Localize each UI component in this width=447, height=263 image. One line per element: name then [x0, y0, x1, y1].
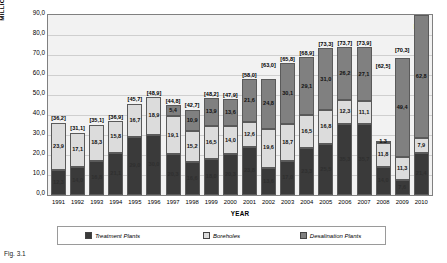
- segment-desalination-plants[interactable]: 62,8: [414, 15, 429, 138]
- segment-boreholes[interactable]: 15,2: [185, 131, 200, 161]
- bar-column[interactable]: [82,1]62,87,921,4: [414, 15, 429, 195]
- segment-value-label: 13,9: [206, 109, 217, 115]
- segment-value-label: 13,6: [263, 179, 274, 185]
- segment-boreholes[interactable]: 15,8: [108, 121, 123, 153]
- segment-boreholes[interactable]: 16,8: [318, 110, 333, 144]
- bar-column[interactable]: [58,0]21,612,623,8: [242, 15, 257, 195]
- segment-treatment-plants[interactable]: 17,0: [280, 161, 295, 195]
- legend-item[interactable]: Desalination Plants: [276, 232, 385, 239]
- segment-boreholes[interactable]: 7,9: [414, 138, 429, 153]
- y-axis-tick-label: 0,0: [19, 190, 45, 196]
- segment-treatment-plants[interactable]: 23,8: [242, 147, 257, 195]
- bar-column[interactable]: [45,7]16,729,0: [127, 15, 142, 195]
- segment-value-label: 21,6: [244, 98, 255, 104]
- segment-desalination-plants[interactable]: 30,1: [280, 63, 295, 123]
- x-axis-tick-label: 2010: [414, 199, 429, 205]
- bar-column[interactable]: [73,7]26,212,335,3: [337, 15, 352, 195]
- segment-boreholes[interactable]: 16,5: [204, 126, 219, 159]
- segment-desalination-plants[interactable]: 13,9: [204, 98, 219, 126]
- x-axis-tick-label: 2000: [223, 199, 238, 205]
- segment-desalination-plants[interactable]: 49,4: [395, 58, 410, 157]
- bar-column[interactable]: [47,9]13,614,020,3: [223, 15, 238, 195]
- legend-item[interactable]: Treatment Plants: [58, 232, 167, 239]
- segment-treatment-plants[interactable]: 13,6: [261, 168, 276, 195]
- segment-boreholes[interactable]: 14,0: [223, 126, 238, 154]
- segment-treatment-plants[interactable]: 29,0: [127, 137, 142, 195]
- bar-column[interactable]: [44,8]5,419,120,3: [166, 15, 181, 195]
- y-axis-tick-label: 50,0: [19, 90, 45, 96]
- segment-desalination-plants[interactable]: 5,4: [166, 105, 181, 116]
- segment-desalination-plants[interactable]: 10,9: [185, 110, 200, 132]
- x-axis-tick-label: 2003: [280, 199, 295, 205]
- segment-boreholes[interactable]: 11,3: [395, 157, 410, 180]
- bar-total-label: [63,0]: [261, 62, 276, 68]
- segment-treatment-plants[interactable]: 23,3: [299, 148, 314, 195]
- segment-boreholes[interactable]: 17,1: [70, 133, 85, 167]
- segment-boreholes[interactable]: 16,5: [299, 115, 314, 148]
- segment-treatment-plants[interactable]: 16,8: [89, 161, 104, 195]
- y-axis-tick-label: 80,0: [19, 30, 45, 36]
- segment-desalination-plants[interactable]: 31,0: [318, 48, 333, 110]
- segment-treatment-plants[interactable]: 20,3: [223, 154, 238, 195]
- segment-value-label: 27,1: [359, 72, 370, 78]
- bar-column[interactable]: [36,9]15,821,1: [108, 15, 123, 195]
- legend-item[interactable]: Boreholes: [167, 232, 276, 239]
- segment-desalination-plants[interactable]: 13,6: [223, 99, 238, 126]
- segment-desalination-plants[interactable]: 21,6: [242, 79, 257, 122]
- segment-value-label: 31,0: [320, 77, 331, 83]
- x-axis-tick-label: 2009: [395, 199, 410, 205]
- segment-treatment-plants[interactable]: 7,6: [395, 180, 410, 195]
- segment-treatment-plants[interactable]: 12,3: [51, 170, 66, 195]
- y-axis-tick-label: 10,0: [19, 170, 45, 176]
- segment-boreholes[interactable]: 16,7: [127, 104, 142, 137]
- bar-total-label: [36,2]: [51, 115, 66, 121]
- segment-boreholes[interactable]: 23,9: [51, 123, 66, 171]
- bar-series-container: [36,2]23,912,3[31,1]17,114,0[35,1]18,316…: [48, 15, 432, 195]
- segment-boreholes[interactable]: 18,7: [280, 124, 295, 161]
- segment-boreholes[interactable]: 19,6: [261, 129, 276, 168]
- segment-boreholes[interactable]: 18,3: [89, 125, 104, 162]
- bar-column[interactable]: [31,1]17,114,0: [70, 15, 85, 195]
- bar-column[interactable]: [35,1]18,316,8: [89, 15, 104, 195]
- bar-column[interactable]: [63,0]24,819,613,6: [261, 15, 276, 195]
- segment-desalination-plants[interactable]: 24,8: [261, 79, 276, 129]
- segment-desalination-plants[interactable]: 26,2: [337, 47, 352, 99]
- segment-treatment-plants[interactable]: 25,5: [318, 144, 333, 195]
- segment-boreholes[interactable]: 11,1: [357, 101, 372, 123]
- segment-treatment-plants[interactable]: 30,0: [146, 135, 161, 195]
- segment-value-label: 16,6: [187, 176, 198, 182]
- segment-boreholes[interactable]: 11,8: [376, 143, 391, 167]
- bar-column[interactable]: [48,2]13,916,518,0: [204, 15, 219, 195]
- bar-column[interactable]: [73,9]27,111,135,7: [357, 15, 372, 195]
- segment-desalination-plants[interactable]: 27,1: [357, 47, 372, 101]
- chart-legend: Treatment PlantsBoreholesDesalination Pl…: [57, 226, 386, 245]
- bar-column[interactable]: [68,9]29,116,523,3: [299, 15, 314, 195]
- x-axis-tick-label: 2006: [337, 199, 352, 205]
- segment-treatment-plants[interactable]: 16,6: [185, 162, 200, 195]
- segment-treatment-plants[interactable]: 21,4: [414, 153, 429, 195]
- segment-treatment-plants[interactable]: 21,1: [108, 153, 123, 195]
- bar-column[interactable]: [42,7]10,915,216,6: [185, 15, 200, 195]
- segment-treatment-plants[interactable]: 14,0: [376, 167, 391, 195]
- segment-value-label: 30,1: [282, 91, 293, 97]
- bar-column[interactable]: [70,3]49,411,37,6: [395, 15, 410, 195]
- segment-treatment-plants[interactable]: 35,7: [357, 124, 372, 195]
- segment-treatment-plants[interactable]: 14,0: [70, 167, 85, 195]
- bar-column[interactable]: [73,3]31,016,825,5: [318, 15, 333, 195]
- bar-column[interactable]: [48,9]18,930,0: [146, 15, 161, 195]
- segment-boreholes[interactable]: 12,3: [337, 100, 352, 125]
- x-axis-tick-label: 2005: [318, 199, 333, 205]
- segment-desalination-plants[interactable]: 29,1: [299, 57, 314, 115]
- bar-total-label: [45,7]: [128, 96, 143, 102]
- segment-treatment-plants[interactable]: 18,0: [204, 159, 219, 195]
- segment-value-label: 17,0: [282, 175, 293, 181]
- segment-boreholes[interactable]: 18,9: [146, 97, 161, 135]
- bar-column[interactable]: [65,8]30,118,717,0: [280, 15, 295, 195]
- segment-value-label: 15,8: [110, 134, 121, 140]
- segment-treatment-plants[interactable]: 35,3: [337, 124, 352, 195]
- bar-column[interactable]: [36,2]23,912,3: [51, 15, 66, 195]
- segment-boreholes[interactable]: 19,1: [166, 116, 181, 154]
- segment-boreholes[interactable]: 12,6: [242, 122, 257, 147]
- bar-column[interactable]: [62,5]1,311,814,0: [376, 15, 391, 195]
- segment-treatment-plants[interactable]: 20,3: [166, 154, 181, 195]
